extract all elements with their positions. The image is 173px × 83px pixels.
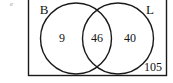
set-l-label: L (146, 2, 154, 17)
region-count-intersection: 46 (91, 31, 103, 45)
region-count-l-only: 40 (124, 31, 136, 45)
venn-diagram-figure: e B L 9 46 40 105 (0, 0, 173, 83)
set-b-label: B (40, 2, 49, 17)
region-count-outside: 105 (144, 60, 162, 74)
region-count-b-only: 9 (59, 31, 65, 45)
venn-diagram-canvas: B L 9 46 40 105 (0, 0, 173, 83)
